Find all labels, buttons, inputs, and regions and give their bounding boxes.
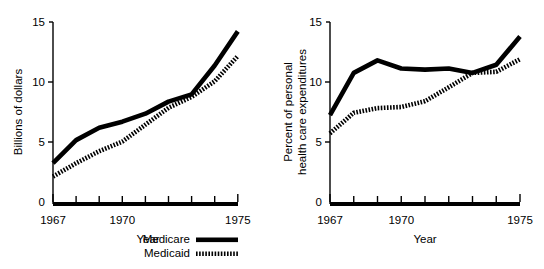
y-tick-label-15: 15 xyxy=(309,16,322,28)
y-tick-label-10: 10 xyxy=(32,76,45,88)
y-tick-label-5: 5 xyxy=(316,136,322,148)
chart-panel-percent: 15 10 5 0 1967 1970 1975 Percent of pers… xyxy=(272,0,544,269)
x-tick-label-1970: 1970 xyxy=(388,214,414,226)
series-medicare-line xyxy=(53,31,238,163)
legend-label-medicare: Medicare xyxy=(143,233,190,245)
y-tick-label-0: 0 xyxy=(316,196,322,208)
legend-label-medicaid: Medicaid xyxy=(144,247,190,259)
x-tick-label-1970: 1970 xyxy=(110,214,136,226)
legend: Medicare Medicaid xyxy=(143,233,238,259)
y-tick-label-15: 15 xyxy=(32,16,45,28)
y-axis-title-line2: health care expenditures xyxy=(296,49,308,175)
x-tick-label-1967: 1967 xyxy=(40,214,66,226)
figure-container: 15 10 5 0 1967 1970 1975 Billions of dol… xyxy=(0,0,544,269)
x-tick-label-1967: 1967 xyxy=(317,214,343,226)
legend-swatch-medicare-solid xyxy=(196,238,238,243)
y-tick-label-0: 0 xyxy=(39,196,45,208)
chart-panel-billions: 15 10 5 0 1967 1970 1975 Billions of dol… xyxy=(0,0,272,269)
left-chart-svg: 15 10 5 0 1967 1970 1975 Billions of dol… xyxy=(0,0,272,269)
y-tick-label-5: 5 xyxy=(39,136,45,148)
x-tick-label-1975: 1975 xyxy=(507,214,533,226)
y-axis-title-line1: Percent of personal xyxy=(282,62,294,162)
x-axis-title: Year xyxy=(413,233,436,245)
y-tick-label-10: 10 xyxy=(309,76,322,88)
x-tick-label-1975: 1975 xyxy=(225,214,251,226)
right-chart-svg: 15 10 5 0 1967 1970 1975 Percent of pers… xyxy=(272,0,544,269)
y-axis-title: Billions of dollars xyxy=(12,69,24,156)
